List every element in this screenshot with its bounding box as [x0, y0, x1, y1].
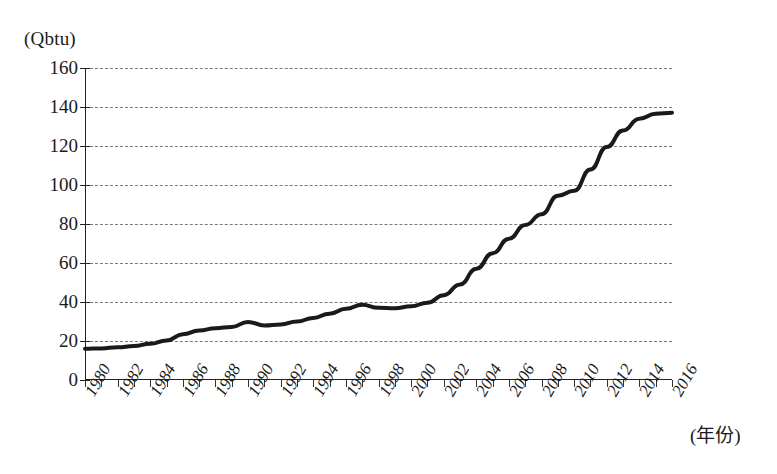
y-tick-label: 0: [69, 369, 79, 391]
energy-consumption-line-chart: (Qbtu) 020406080100120140160 19801982198…: [0, 0, 777, 474]
x-tick-label: 2016: [668, 361, 702, 400]
y-tick-label: 120: [50, 135, 79, 157]
data-series-line: [85, 68, 672, 380]
y-tick-label: 140: [50, 96, 79, 118]
y-tick-label: 60: [59, 252, 78, 274]
plot-area: 020406080100120140160 198019821984198619…: [85, 68, 672, 380]
y-tick-label: 160: [50, 57, 79, 79]
x-axis-title: (年份): [690, 420, 741, 447]
y-tick-label: 20: [59, 330, 78, 352]
y-axis-unit-label: (Qbtu): [24, 28, 76, 50]
y-tick-label: 80: [59, 213, 78, 235]
series-path: [85, 113, 672, 349]
y-tick-label: 100: [50, 174, 79, 196]
y-tick-label: 40: [59, 291, 78, 313]
